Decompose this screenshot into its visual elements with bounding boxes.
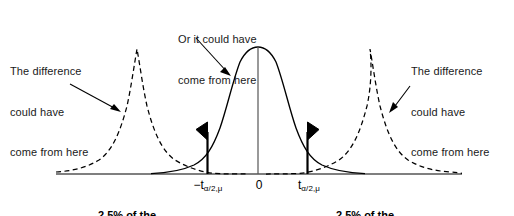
annotation-left-line2: could have: [10, 106, 88, 120]
annotation-left-line3: come from here: [10, 146, 88, 160]
axis-label-negative-t-subscript: α/2,μ: [204, 184, 223, 193]
leader-line-right: [389, 86, 410, 113]
axis-label-negative-t-symbol: −t: [194, 178, 204, 192]
critical-value-lower-arrow-icon: [196, 122, 208, 140]
axis-label-positive-t: tα/2,μ: [298, 178, 320, 193]
annotation-left: The difference could have come from here: [10, 38, 88, 187]
annotation-middle-line2: come from here: [178, 74, 257, 88]
t-distribution-figure: The difference could have come from here…: [0, 0, 514, 216]
axis-label-positive-t-subscript: α/2,μ: [301, 184, 320, 193]
annotation-middle: Or it could have come from here: [178, 6, 257, 114]
annotation-right-line3: come from here: [411, 146, 489, 160]
annotation-right: The difference could have come from here: [411, 38, 489, 187]
axis-label-zero: 0: [256, 178, 263, 192]
tail-note-below: 2.5% of the area is below: [98, 178, 167, 216]
tail-note-below-line1: 2.5% of the: [98, 208, 156, 216]
tail-note-above-line1: 2.5% of the: [336, 208, 394, 216]
annotation-middle-line1: Or it could have: [178, 33, 257, 47]
annotation-right-line2: could have: [411, 106, 489, 120]
annotation-right-line1: The difference: [411, 65, 489, 79]
critical-value-upper-arrow-icon: [308, 122, 320, 140]
annotation-left-line1: The difference: [10, 65, 88, 79]
axis-label-negative-t: −tα/2,μ: [194, 178, 223, 193]
tail-note-above: 2.5% of the area is above: [336, 178, 406, 216]
